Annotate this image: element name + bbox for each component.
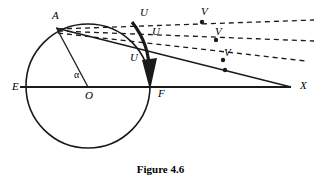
label-angle-alpha: α bbox=[74, 70, 79, 80]
figure-4-6-container: A E O F X α U U U V V V Figure 4.6 bbox=[0, 0, 321, 187]
label-point-a: A bbox=[52, 10, 59, 21]
label-u-middle: U bbox=[152, 26, 160, 37]
dot-v-top bbox=[200, 20, 204, 24]
label-point-f: F bbox=[158, 88, 165, 99]
segment-o-a bbox=[57, 29, 88, 87]
label-point-x: X bbox=[300, 80, 307, 91]
arc-arrow-head-icon bbox=[142, 58, 157, 90]
label-u-bottom: U bbox=[130, 52, 138, 63]
dashed-ray-u-bottom bbox=[58, 33, 306, 61]
figure-caption: Figure 4.6 bbox=[0, 163, 321, 175]
label-v-middle: V bbox=[215, 26, 222, 37]
dashed-ray-u-middle bbox=[58, 31, 314, 41]
dot-on-ray-a-x bbox=[223, 68, 227, 72]
label-v-bottom: V bbox=[224, 47, 231, 58]
dot-v-bottom bbox=[221, 58, 225, 62]
label-point-e: E bbox=[12, 81, 19, 92]
label-point-o: O bbox=[85, 90, 93, 101]
dot-v-middle bbox=[214, 38, 218, 42]
ray-a-x bbox=[56, 28, 291, 87]
label-v-top: V bbox=[201, 6, 208, 17]
label-u-top: U bbox=[140, 7, 148, 18]
